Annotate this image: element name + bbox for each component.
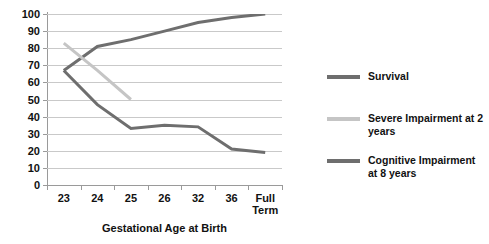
- y-tick-label-90: 90: [0, 26, 40, 37]
- y-tick-label-50: 50: [0, 94, 40, 105]
- y-tick-mark-10: [43, 168, 47, 169]
- x-tick-mark-7: [282, 185, 283, 190]
- x-tick-label-24: 24: [81, 192, 115, 204]
- plot-wrapper: 0102030405060708090100 232425263236Full …: [0, 0, 320, 215]
- y-tick-label-70: 70: [0, 60, 40, 71]
- y-tick-label-30: 30: [0, 128, 40, 139]
- y-tick-mark-30: [43, 134, 47, 135]
- x-axis-line: [47, 185, 282, 186]
- y-tick-label-60: 60: [0, 77, 40, 88]
- legend-item-severe-impairment-at-2-years[interactable]: Severe Impairment at 2 years: [327, 112, 486, 137]
- chart-container: 0102030405060708090100 232425263236Full …: [0, 0, 489, 244]
- y-tick-label-100: 100: [0, 9, 40, 20]
- x-tick-mark-2: [114, 185, 115, 190]
- legend-swatch-icon: [327, 117, 360, 121]
- x-tick-label-25: 25: [114, 192, 148, 204]
- y-tick-mark-40: [43, 117, 47, 118]
- legend-swatch-icon: [327, 159, 360, 163]
- y-tick-label-0: 0: [0, 180, 40, 191]
- legend-item-cognitive-impairment-at-8-years[interactable]: Cognitive Impairment at 8 years: [327, 154, 486, 179]
- x-axis-tick-labels: 232425263236Full Term: [47, 192, 282, 222]
- y-tick-mark-80: [43, 48, 47, 49]
- x-tick-label-32: 32: [181, 192, 215, 204]
- x-tick-mark-5: [215, 185, 216, 190]
- x-tick-mark-4: [181, 185, 182, 190]
- series-line-survival: [64, 14, 265, 70]
- y-tick-mark-100: [43, 14, 47, 15]
- x-tick-label-full-term: Full Term: [248, 192, 282, 216]
- y-tick-label-20: 20: [0, 145, 40, 156]
- y-axis-tick-labels: 0102030405060708090100: [0, 0, 44, 215]
- y-tick-mark-50: [43, 100, 47, 101]
- series-line-severe-impairment-at-2-years: [64, 43, 131, 99]
- x-tick-label-36: 36: [215, 192, 249, 204]
- x-tick-label-26: 26: [148, 192, 182, 204]
- legend-label: Survival: [368, 70, 409, 83]
- series-layer: [47, 14, 282, 185]
- legend-swatch-icon: [327, 75, 360, 79]
- series-line-cognitive-impairment-at-8-years: [64, 70, 265, 152]
- legend-label: Severe Impairment at 2 years: [368, 112, 486, 137]
- x-tick-mark-3: [148, 185, 149, 190]
- y-tick-mark-70: [43, 65, 47, 66]
- legend-item-survival[interactable]: Survival: [327, 70, 409, 83]
- x-axis-title: Gestational Age at Birth: [47, 222, 282, 234]
- x-tick-mark-1: [81, 185, 82, 190]
- y-tick-label-10: 10: [0, 162, 40, 173]
- x-tick-label-23: 23: [47, 192, 81, 204]
- legend-label: Cognitive Impairment at 8 years: [368, 154, 486, 179]
- y-tick-mark-20: [43, 151, 47, 152]
- x-tick-mark-6: [248, 185, 249, 190]
- y-tick-mark-90: [43, 31, 47, 32]
- x-tick-mark-0: [47, 185, 48, 190]
- y-tick-label-80: 80: [0, 43, 40, 54]
- y-tick-label-40: 40: [0, 111, 40, 122]
- y-tick-mark-60: [43, 82, 47, 83]
